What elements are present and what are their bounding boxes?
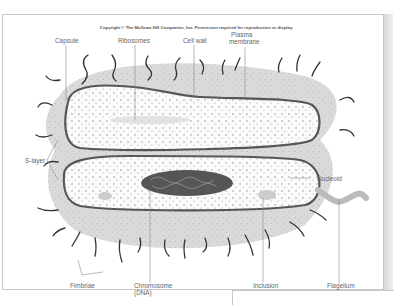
overlapping-panel: [232, 290, 394, 305]
inclusion-shape: [258, 190, 276, 200]
inclusion-shape: [98, 192, 112, 200]
copyright-notice: Copyright © The McGraw-Hill Companies, I…: [0, 25, 393, 30]
label-ribosomes: Ribosomes: [118, 37, 150, 44]
flagellum-shape: [318, 190, 366, 202]
label-chromosome-line2: (DNA): [134, 289, 152, 296]
label-nucleoid: Nucleoid: [317, 175, 342, 182]
nucleoid-shape: [141, 170, 233, 196]
label-capsule: Capsule: [55, 37, 78, 44]
label-cell-wall: Cell wall: [183, 37, 207, 44]
label-fimbriae: Fimbriae: [70, 282, 95, 289]
label-flagellum: Flagellum: [327, 282, 355, 289]
label-plasma-membrane-line1: Plasma: [231, 31, 252, 38]
label-plasma-membrane-line2: membrane: [229, 38, 260, 45]
label-s-layer: S-layer: [25, 157, 45, 164]
label-chromosome-line1: Chromosome: [134, 282, 172, 289]
label-inclusion: Inclusion: [253, 282, 278, 289]
